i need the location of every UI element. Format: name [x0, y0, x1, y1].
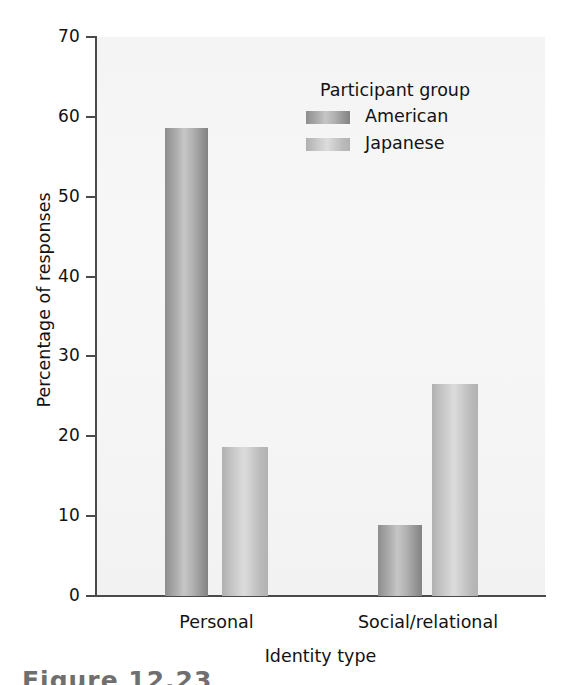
y-tick-label-70: 70 — [34, 26, 80, 46]
y-tick-20 — [86, 435, 96, 437]
japanese-swatch-icon — [306, 138, 350, 151]
x-category-label-0: Personal — [107, 612, 327, 632]
y-tick-40 — [86, 276, 96, 278]
legend-label-japanese: Japanese — [365, 135, 444, 153]
y-tick-10 — [86, 515, 96, 517]
bar-american-social-relational — [378, 525, 422, 596]
legend-entry-american: American — [306, 106, 536, 128]
bar-american-personal — [165, 128, 208, 596]
y-tick-label-0: 0 — [34, 585, 80, 605]
y-tick-30 — [86, 355, 96, 357]
y-tick-70 — [86, 36, 96, 38]
bar-chart-figure: 010203040506070 PersonalSocial/relationa… — [0, 0, 570, 685]
bar-japanese-social-relational — [432, 384, 478, 596]
american-swatch-icon — [306, 111, 350, 124]
y-axis-title: Percentage of responses — [34, 170, 54, 430]
figure-caption: Figure 12.23 — [22, 666, 212, 685]
y-tick-label-60: 60 — [34, 106, 80, 126]
x-axis-title: Identity type — [96, 646, 545, 666]
legend-entry-japanese: Japanese — [306, 133, 536, 155]
y-tick-0 — [86, 595, 96, 597]
legend-title: Participant group — [320, 80, 536, 100]
bar-japanese-personal — [222, 447, 268, 596]
y-tick-label-10: 10 — [34, 505, 80, 525]
y-tick-60 — [86, 116, 96, 118]
y-tick-50 — [86, 196, 96, 198]
legend-label-american: American — [365, 108, 448, 126]
x-category-label-1: Social/relational — [318, 612, 538, 632]
legend: Participant group American Japanese — [306, 80, 536, 160]
